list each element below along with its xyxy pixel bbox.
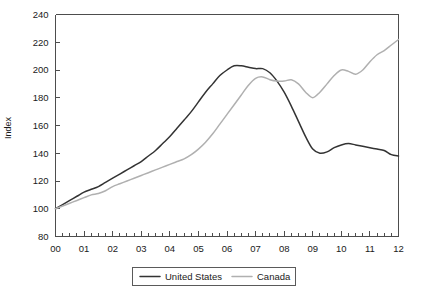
chart-legend: United States Canada [133, 268, 296, 286]
x-tick-label: 04 [165, 243, 176, 254]
x-tick-label: 03 [136, 243, 147, 254]
y-tick-label: 120 [33, 175, 49, 186]
y-tick-label: 240 [33, 9, 49, 20]
y-tick-label: 180 [33, 92, 49, 103]
series-line-canada [56, 39, 399, 208]
series-line-united-states [56, 65, 399, 208]
x-tick-label: 00 [50, 243, 61, 254]
x-tick-label: 06 [222, 243, 233, 254]
y-axis-title: Index [3, 116, 13, 139]
x-tick-label: 11 [365, 243, 375, 254]
plot-frame [56, 15, 399, 237]
chart-figure: 80100120140160180200220240 0001020304050… [0, 0, 422, 295]
y-tick-label: 220 [33, 37, 49, 48]
y-tick-label: 160 [33, 120, 49, 131]
y-axis-tick-labels: 80100120140160180200220240 [33, 9, 49, 242]
x-tick-label: 10 [336, 243, 347, 254]
x-tick-label: 09 [307, 243, 318, 254]
y-tick-label: 100 [33, 203, 49, 214]
x-axis-ticks [56, 231, 399, 237]
x-tick-label: 01 [79, 243, 90, 254]
line-chart: 80100120140160180200220240 0001020304050… [0, 0, 422, 295]
y-tick-label: 80 [38, 231, 49, 242]
y-tick-label: 140 [33, 148, 49, 159]
data-series-group [56, 39, 399, 208]
x-tick-label: 02 [107, 243, 118, 254]
x-tick-label: 07 [250, 243, 261, 254]
legend-label-united-states: United States [165, 271, 222, 282]
x-tick-label: 08 [279, 243, 290, 254]
y-axis-ticks [56, 15, 60, 237]
y-tick-label: 200 [33, 64, 49, 75]
x-axis-tick-labels: 00010203040506070809101112 [50, 243, 404, 254]
legend-label-canada: Canada [257, 271, 291, 282]
x-tick-label: 12 [393, 243, 404, 254]
x-tick-label: 05 [193, 243, 204, 254]
